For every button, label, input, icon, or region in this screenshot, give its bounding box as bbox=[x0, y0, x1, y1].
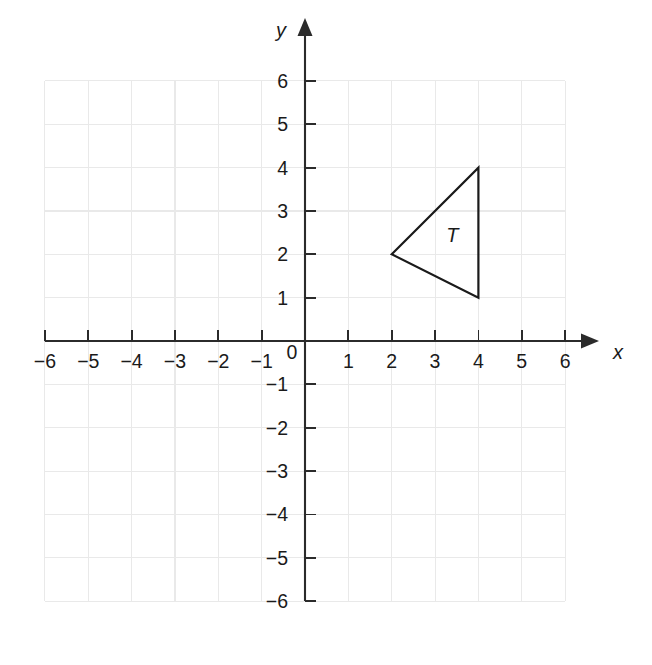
y-axis-tick-label: 2 bbox=[277, 243, 288, 265]
y-axis-tick-label: −4 bbox=[266, 503, 288, 525]
x-axis-tick-label: −4 bbox=[120, 350, 142, 372]
origin-label: 0 bbox=[287, 341, 298, 363]
x-axis-tick-label: 2 bbox=[386, 350, 397, 372]
y-axis-tick-label: −5 bbox=[266, 547, 288, 569]
shape-label-t: T bbox=[446, 224, 460, 246]
y-axis-tick-label: 3 bbox=[277, 200, 288, 222]
x-axis-tick-label: −1 bbox=[251, 350, 273, 372]
x-axis-tick-label: −3 bbox=[164, 350, 186, 372]
x-axis-tick-label: −6 bbox=[34, 350, 56, 372]
y-axis-tick-label: 6 bbox=[277, 70, 288, 92]
y-axis-tick-label: −3 bbox=[266, 460, 288, 482]
y-axis-tick-label: 5 bbox=[277, 113, 288, 135]
x-axis-arrowhead bbox=[581, 334, 599, 349]
coordinate-plane-svg: −6−5−4−3−2−10123456654321−1−2−3−4−5−6 T … bbox=[0, 0, 652, 665]
y-axis-arrowhead bbox=[298, 18, 313, 36]
x-axis-tick-label: 4 bbox=[473, 350, 484, 372]
x-axis-tick-label: 1 bbox=[343, 350, 354, 372]
y-axis-tick-label: −6 bbox=[266, 590, 288, 612]
y-axis-label: y bbox=[274, 19, 287, 41]
y-axis-tick-label: 1 bbox=[277, 287, 288, 309]
x-axis-tick-label: −2 bbox=[207, 350, 229, 372]
y-axis-tick-label: −1 bbox=[266, 373, 288, 395]
coordinate-plane-figure: −6−5−4−3−2−10123456654321−1−2−3−4−5−6 T … bbox=[0, 0, 652, 665]
x-axis-tick-label: 6 bbox=[560, 350, 571, 372]
x-axis-tick-label: −5 bbox=[77, 350, 99, 372]
x-axis-tick-label: 5 bbox=[516, 350, 527, 372]
y-axis-tick-label: −2 bbox=[266, 417, 288, 439]
axes-layer bbox=[45, 18, 599, 601]
y-axis-tick-label: 4 bbox=[277, 157, 288, 179]
x-axis-tick-label: 3 bbox=[430, 350, 441, 372]
x-axis-label: x bbox=[612, 341, 624, 363]
